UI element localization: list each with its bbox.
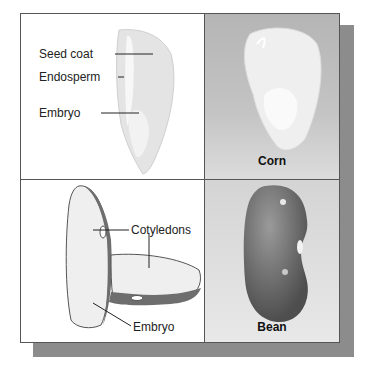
bean-section-panel: Cotyledons Embryo	[21, 179, 204, 342]
seed-comparison-figure: Seed coat Endosperm Embryo Corn Cotyledo…	[20, 13, 340, 343]
bean-illustration	[205, 180, 339, 342]
bean-section-illustration	[21, 180, 204, 342]
label-embryo-bean: Embryo	[133, 320, 174, 334]
bean-whole-panel: Bean	[204, 179, 339, 342]
corn-section-illustration	[21, 14, 204, 179]
label-embryo-corn: Embryo	[39, 106, 80, 120]
corn-section-panel: Seed coat Endosperm Embryo	[21, 14, 204, 179]
label-seed-coat: Seed coat	[39, 47, 93, 61]
label-endosperm: Endosperm	[39, 70, 100, 84]
label-cotyledons: Cotyledons	[131, 223, 191, 237]
corn-whole-panel: Corn	[204, 14, 339, 179]
caption-corn: Corn	[205, 154, 339, 168]
caption-bean: Bean	[205, 320, 339, 334]
